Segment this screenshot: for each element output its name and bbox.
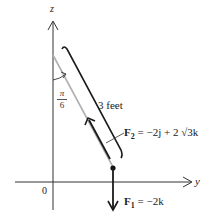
angle-label: π 6 bbox=[57, 89, 67, 110]
rod bbox=[53, 55, 113, 167]
origin-label: 0 bbox=[42, 186, 47, 196]
force-diagram: z y 0 π 6 3 feet F2 = −2j + 2 √3k F1 = −… bbox=[0, 0, 223, 222]
f2-leader-line bbox=[106, 133, 124, 143]
z-axis-label: z bbox=[50, 4, 54, 14]
f2-name: F bbox=[124, 126, 131, 138]
f1-label: F1 = −2k bbox=[124, 196, 164, 210]
f1-expression: = −2k bbox=[135, 195, 164, 207]
diagram-canvas bbox=[0, 0, 223, 222]
angle-denominator: 6 bbox=[57, 100, 67, 110]
angle-numerator: π bbox=[57, 89, 67, 100]
length-label: 3 feet bbox=[98, 100, 123, 111]
f1-name: F bbox=[124, 195, 131, 207]
y-axis-label: y bbox=[195, 176, 200, 187]
f2-expression: = −2j + 2 √3k bbox=[135, 126, 198, 138]
f2-label: F2 = −2j + 2 √3k bbox=[124, 127, 198, 141]
f2-vector bbox=[89, 120, 110, 159]
